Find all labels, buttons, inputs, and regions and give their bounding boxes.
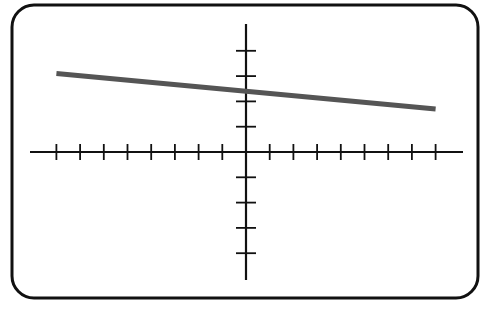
graph-panel (0, 0, 493, 317)
